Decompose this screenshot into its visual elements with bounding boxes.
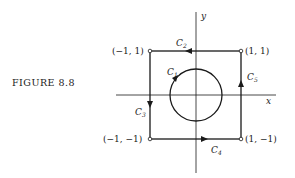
corner-label-top-left: (−1, 1) <box>112 46 144 56</box>
corner-label-top-right: (1, 1) <box>245 46 269 56</box>
curve-label-c1: C1 <box>167 67 178 78</box>
corner-top-left-point <box>148 49 152 53</box>
arrow-c3-down-icon <box>147 101 153 108</box>
curve-label-c5: C5 <box>247 72 258 83</box>
corner-label-bottom-right: (1, −1) <box>245 134 277 144</box>
corner-bottom-right-point <box>239 137 243 141</box>
corner-top-right-point <box>239 49 243 53</box>
curve-label-c3: C3 <box>135 107 146 118</box>
x-axis-label: x <box>266 96 271 106</box>
y-axis-label: y <box>200 11 207 21</box>
contour-diagram: y x (−1, 1) (1, 1) (−1, −1) (1, −1) C1 C… <box>0 0 295 178</box>
corner-label-bottom-left: (−1, −1) <box>103 134 142 144</box>
arrow-c5-up-icon <box>238 80 244 87</box>
curve-label-c4: C4 <box>211 145 222 156</box>
arrow-c4-right-icon <box>201 136 208 142</box>
corner-bottom-left-point <box>148 137 152 141</box>
curve-label-c2: C2 <box>176 38 187 49</box>
